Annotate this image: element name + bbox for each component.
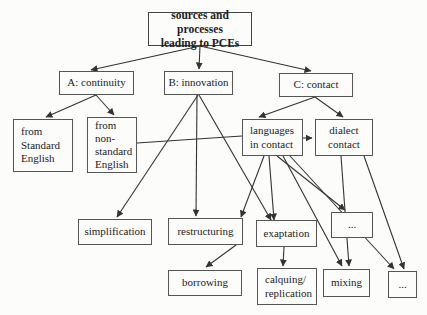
edge-languages_in_contact-to-mixing — [283, 156, 342, 266]
node-borrowing-label: borrowing — [182, 276, 228, 289]
node-simplification-label: simplification — [84, 225, 145, 238]
node-c-contact: C: contact — [279, 73, 353, 97]
node-c-contact-label: C: contact — [294, 78, 339, 91]
node-from-standard-english-label: from Standard English — [21, 125, 60, 165]
node-from-standard-english: from Standard English — [13, 119, 73, 172]
node-restructuring: restructuring — [168, 218, 243, 245]
node-simplification: simplification — [78, 219, 152, 245]
node-exaptation: exaptation — [256, 220, 317, 247]
node-mixing: mixing — [323, 269, 370, 297]
node-ellipsis-level4: ... — [388, 271, 417, 298]
node-b-innovation-label: B: innovation — [168, 76, 228, 89]
node-calquing-replication: calquing/ replication — [257, 268, 317, 305]
edge-continuity-to-from_nonstandard — [96, 95, 114, 115]
edge-restructuring-to-borrowing — [206, 245, 236, 267]
node-dialect-contact-label: dialect contact — [328, 124, 360, 151]
node-a-continuity-label: A: continuity — [67, 76, 125, 89]
edge-contact-to-dialect_contact — [315, 97, 343, 117]
node-languages-in-contact-label: languages in contact — [250, 124, 294, 151]
edge-languages_in_contact-to-exaptation — [269, 156, 274, 220]
node-b-innovation: B: innovation — [164, 71, 233, 95]
node-ellipsis-level3: ... — [331, 212, 373, 238]
node-from-nonstandard-english-label: from non- standard English — [95, 119, 132, 171]
node-borrowing: borrowing — [168, 270, 242, 296]
edge-innovation-to-exaptation — [199, 95, 271, 220]
pce-sources-diagram: sources and processes leading to PCEs A:… — [0, 0, 427, 315]
edge-innovation-to-restructuring — [196, 95, 197, 216]
edge-dialect_contact-to-mixing — [341, 156, 349, 266]
node-from-nonstandard-english: from non- standard English — [87, 117, 137, 173]
node-restructuring-label: restructuring — [177, 225, 233, 238]
node-ellipsis-level4-label: ... — [398, 278, 406, 291]
edge-languages_in_contact-to-restructuring — [241, 156, 264, 217]
node-a-continuity: A: continuity — [59, 71, 134, 95]
node-languages-in-contact: languages in contact — [242, 119, 303, 156]
node-ellipsis-level3-label: ... — [348, 218, 356, 231]
edge-continuity-to-from_standard — [46, 95, 96, 117]
edge-exaptation-to-calquing — [283, 247, 284, 266]
node-root-label: sources and processes leading to PCEs — [149, 8, 251, 50]
node-calquing-replication-label: calquing/ replication — [265, 273, 312, 300]
node-mixing-label: mixing — [331, 276, 362, 289]
node-exaptation-label: exaptation — [264, 227, 310, 240]
edge-contact-to-languages_in_contact — [259, 97, 315, 117]
node-dialect-contact: dialect contact — [315, 119, 373, 156]
node-root: sources and processes leading to PCEs — [148, 12, 252, 46]
